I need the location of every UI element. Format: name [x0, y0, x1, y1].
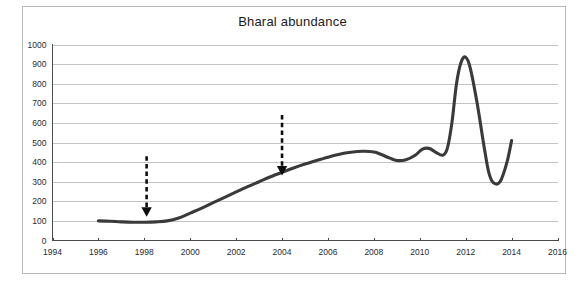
- x-tick-label-2008: 2008: [364, 247, 383, 257]
- chart-plot: 01002003004005006007008009001000 1994199…: [0, 0, 585, 284]
- x-tick-label-2016: 2016: [548, 247, 567, 257]
- y-tick-label-500: 500: [32, 138, 46, 148]
- y-axis-tick-labels: 01002003004005006007008009001000: [28, 40, 47, 246]
- y-tick-label-300: 300: [32, 177, 46, 187]
- y-tick-label-200: 200: [32, 196, 46, 206]
- x-tick-label-1996: 1996: [89, 247, 108, 257]
- y-tick-label-1000: 1000: [28, 40, 47, 50]
- data-series-line: [98, 57, 511, 222]
- x-tick-label-2000: 2000: [181, 247, 200, 257]
- x-tick-label-2004: 2004: [273, 247, 292, 257]
- y-tick-label-900: 900: [32, 59, 46, 69]
- x-tick-label-2012: 2012: [456, 247, 475, 257]
- x-tick-label-2002: 2002: [227, 247, 246, 257]
- x-tick-label-2014: 2014: [502, 247, 521, 257]
- x-tick-label-1994: 1994: [43, 247, 62, 257]
- chart-screenshot: Bharal abundance 01002003004005006007008…: [0, 0, 585, 284]
- x-tick-label-2010: 2010: [410, 247, 429, 257]
- y-tick-label-800: 800: [32, 79, 46, 89]
- annotation-arrow-head-1: [141, 207, 151, 217]
- y-tick-label-100: 100: [32, 216, 46, 226]
- x-tick-label-2006: 2006: [318, 247, 337, 257]
- y-tick-label-700: 700: [32, 98, 46, 108]
- annotation-arrow-1: [141, 156, 151, 216]
- x-axis-tick-labels: 1994199619982000200220042006200820102012…: [43, 247, 567, 257]
- x-tick-label-1998: 1998: [135, 247, 154, 257]
- y-tick-label-600: 600: [32, 118, 46, 128]
- y-tick-label-400: 400: [32, 157, 46, 167]
- y-tick-label-0: 0: [42, 236, 47, 246]
- annotation-arrow-2: [277, 115, 287, 175]
